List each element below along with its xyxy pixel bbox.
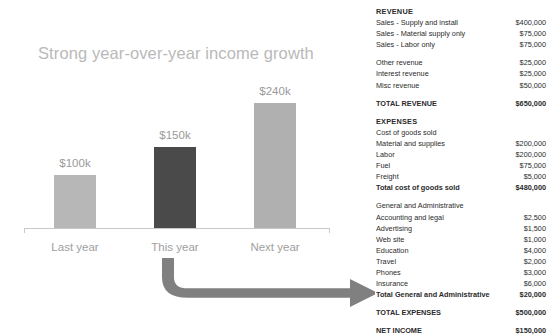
statement-total-expenses: TOTAL EXPENSES $500,000 bbox=[376, 307, 546, 318]
row-value: $6,000 bbox=[524, 278, 546, 289]
row-spacer bbox=[376, 318, 546, 325]
row-label: Total General and Administrative bbox=[376, 289, 496, 300]
row-value: $200,000 bbox=[516, 149, 546, 160]
statement-subheading-cogs: Cost of goods sold bbox=[376, 127, 546, 138]
row-value: $50,000 bbox=[520, 80, 546, 91]
x-axis-line bbox=[24, 228, 330, 229]
row-value: $650,000 bbox=[516, 98, 546, 109]
row-label: Sales - Supply and install bbox=[376, 17, 464, 28]
row-value: $150,000 bbox=[516, 325, 546, 336]
statement-row: Sales - Supply and install $400,000 bbox=[376, 17, 546, 28]
statement-row: Phones $3,000 bbox=[376, 267, 546, 278]
bar-last-year[interactable] bbox=[54, 175, 96, 228]
row-label: Misc revenue bbox=[376, 80, 425, 91]
net-income-elbow-arrow bbox=[160, 258, 375, 320]
statement-row: Accounting and legal $2,500 bbox=[376, 212, 546, 223]
row-value: $25,000 bbox=[520, 57, 546, 68]
axis-tick-left bbox=[24, 228, 25, 233]
statement-row: Fuel $75,000 bbox=[376, 160, 546, 171]
row-label: TOTAL EXPENSES bbox=[376, 307, 447, 318]
row-label: Sales - Labor only bbox=[376, 39, 441, 50]
row-value: $75,000 bbox=[520, 28, 546, 39]
row-value: $500,000 bbox=[516, 307, 546, 318]
row-label: NET INCOME bbox=[376, 325, 428, 336]
row-label: Web site bbox=[376, 234, 410, 245]
bar-value-label: $150k bbox=[140, 129, 210, 141]
bar-group-last-year[interactable]: $100k Last year bbox=[54, 175, 96, 228]
bar-category-label: This year bbox=[125, 241, 225, 253]
statement-row: Material and supplies $200,000 bbox=[376, 138, 546, 149]
row-spacer bbox=[376, 91, 546, 98]
statement-row: Sales - Material supply only $75,000 bbox=[376, 28, 546, 39]
row-label: Interest revenue bbox=[376, 68, 435, 79]
row-label: Advertising bbox=[376, 223, 418, 234]
row-value: $20,000 bbox=[520, 289, 546, 300]
row-value: $480,000 bbox=[516, 182, 546, 193]
row-value: $4,000 bbox=[524, 245, 546, 256]
statement-section-heading-expenses: EXPENSES bbox=[376, 116, 546, 127]
bar-category-label: Last year bbox=[25, 241, 125, 253]
row-label: Travel bbox=[376, 256, 402, 267]
statement-total-cogs: Total cost of goods sold $480,000 bbox=[376, 182, 546, 193]
row-value: $5,000 bbox=[524, 171, 546, 182]
statement-row: Interest revenue $25,000 bbox=[376, 68, 546, 79]
row-value: $75,000 bbox=[520, 39, 546, 50]
statement-total-revenue: TOTAL REVENUE $650,000 bbox=[376, 98, 546, 109]
bar-value-label: $240k bbox=[240, 85, 310, 97]
statement-row: Education $4,000 bbox=[376, 245, 546, 256]
row-value: $1,000 bbox=[524, 234, 546, 245]
row-label: Other revenue bbox=[376, 57, 429, 68]
row-label: TOTAL REVENUE bbox=[376, 98, 443, 109]
row-label: Cost of goods sold bbox=[376, 127, 442, 138]
section-heading-text: EXPENSES bbox=[376, 116, 423, 127]
row-value: $2,000 bbox=[524, 256, 546, 267]
row-spacer bbox=[376, 50, 546, 57]
row-spacer bbox=[376, 109, 546, 116]
statement-row: Misc revenue $50,000 bbox=[376, 80, 546, 91]
row-label: Fuel bbox=[376, 160, 396, 171]
axis-tick-right bbox=[329, 228, 330, 233]
chart-panel: Strong year-over-year income growth $100… bbox=[0, 0, 370, 334]
row-value: $200,000 bbox=[516, 138, 546, 149]
bar-next-year[interactable] bbox=[254, 103, 296, 228]
statement-section-heading-revenue: REVENUE bbox=[376, 6, 546, 17]
row-label: Material and supplies bbox=[376, 138, 451, 149]
bar-value-label: $100k bbox=[40, 157, 110, 169]
statement-row: Sales - Labor only $75,000 bbox=[376, 39, 546, 50]
statement-row: Other revenue $25,000 bbox=[376, 57, 546, 68]
row-label: Phones bbox=[376, 267, 407, 278]
row-label: General and Administrative bbox=[376, 200, 470, 211]
row-spacer bbox=[376, 300, 546, 307]
row-label: Total cost of goods sold bbox=[376, 182, 466, 193]
row-label: Sales - Material supply only bbox=[376, 28, 471, 39]
bar-category-label: Next year bbox=[225, 241, 325, 253]
bar-this-year[interactable] bbox=[154, 147, 196, 228]
row-label: Labor bbox=[376, 149, 401, 160]
row-value: $3,000 bbox=[524, 267, 546, 278]
statement-row: Freight $5,000 bbox=[376, 171, 546, 182]
row-label: Accounting and legal bbox=[376, 212, 450, 223]
statement-row: Advertising $1,500 bbox=[376, 223, 546, 234]
row-value: $75,000 bbox=[520, 160, 546, 171]
statement-row: Insurance $6,000 bbox=[376, 278, 546, 289]
bar-group-this-year[interactable]: $150k This year bbox=[154, 147, 196, 228]
statement-subheading-gna: General and Administrative bbox=[376, 200, 546, 211]
row-value: $2,500 bbox=[524, 212, 546, 223]
statement-total-gna: Total General and Administrative $20,000 bbox=[376, 289, 546, 300]
statement-row: Travel $2,000 bbox=[376, 256, 546, 267]
row-label: Insurance bbox=[376, 278, 414, 289]
row-value: $1,500 bbox=[524, 223, 546, 234]
row-label: Freight bbox=[376, 171, 405, 182]
row-label: Education bbox=[376, 245, 414, 256]
statement-row: Labor $200,000 bbox=[376, 149, 546, 160]
row-value: $400,000 bbox=[516, 17, 546, 28]
row-value: $25,000 bbox=[520, 68, 546, 79]
statement-row: Web site $1,000 bbox=[376, 234, 546, 245]
section-heading-text: REVENUE bbox=[376, 6, 419, 17]
income-statement: REVENUE Sales - Supply and install $400,… bbox=[376, 6, 546, 336]
statement-net-income: NET INCOME $150,000 bbox=[376, 325, 546, 336]
row-spacer bbox=[376, 193, 546, 200]
bar-group-next-year[interactable]: $240k Next year bbox=[254, 103, 296, 228]
